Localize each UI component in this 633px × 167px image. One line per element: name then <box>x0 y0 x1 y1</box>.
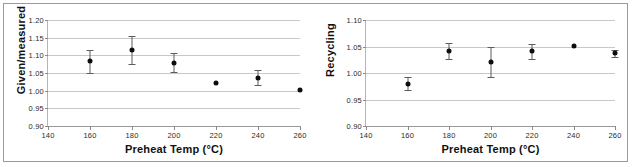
x-tick-mark <box>48 126 49 130</box>
error-bar-cap <box>529 44 536 45</box>
data-point <box>298 87 303 92</box>
y-tick-mark <box>45 55 48 56</box>
x-tick-mark <box>258 126 259 130</box>
x-tick-label: 160 <box>401 131 414 140</box>
y-tick-mark <box>363 47 366 48</box>
error-bar-cap <box>171 53 178 54</box>
x-tick-mark <box>366 126 367 130</box>
x-axis-label: Preheat Temp (°C) <box>48 143 300 155</box>
y-tick-mark <box>45 20 48 21</box>
y-tick-label: 1.00 <box>347 69 362 78</box>
y-tick-label: 0.90 <box>29 122 44 131</box>
y-tick-label: 1.10 <box>347 16 362 25</box>
x-tick-mark <box>491 126 492 130</box>
x-axis-label: Preheat Temp (°C) <box>366 143 615 155</box>
gridline-y <box>366 20 615 21</box>
y-tick-label: 0.95 <box>347 95 362 104</box>
x-tick-label: 200 <box>167 131 180 140</box>
x-tick-mark <box>300 126 301 130</box>
y-tick-mark <box>363 20 366 21</box>
data-point <box>447 49 452 54</box>
y-axis-label: Given/measured <box>15 0 27 103</box>
error-bar-cap <box>129 64 136 65</box>
data-point <box>613 51 618 56</box>
x-tick-label: 260 <box>608 131 621 140</box>
x-tick-label: 160 <box>83 131 96 140</box>
plot-area-given-measured: Preheat Temp (°C) 0.900.951.001.051.101.… <box>47 20 300 126</box>
y-tick-label: 1.00 <box>29 86 44 95</box>
error-bar-cap <box>446 43 453 44</box>
data-point <box>530 49 535 54</box>
x-tick-mark <box>615 126 616 130</box>
y-tick-mark <box>45 91 48 92</box>
x-axis-label-text: Preheat Temp (°C) <box>441 143 539 155</box>
x-tick-mark <box>574 126 575 130</box>
x-tick-label: 260 <box>293 131 306 140</box>
error-bar-cap <box>487 77 494 78</box>
x-tick-label: 180 <box>125 131 138 140</box>
data-point <box>405 81 410 86</box>
error-bar-cap <box>529 59 536 60</box>
y-tick-label: 0.90 <box>347 122 362 131</box>
x-axis-label-text: Preheat Temp (°C) <box>125 143 223 155</box>
x-tick-label: 200 <box>484 131 497 140</box>
error-bar-cap <box>446 59 453 60</box>
error-bar-cap <box>404 77 411 78</box>
data-point <box>172 60 177 65</box>
data-point <box>488 59 493 64</box>
data-point <box>130 47 135 52</box>
y-tick-label: 1.20 <box>29 16 44 25</box>
error-bar-cap <box>404 90 411 91</box>
error-bar-cap <box>255 85 262 86</box>
x-tick-label: 240 <box>567 131 580 140</box>
error-bar-cap <box>87 73 94 74</box>
y-tick-mark <box>45 108 48 109</box>
error-bar-cap <box>129 36 136 37</box>
x-tick-mark <box>532 126 533 130</box>
x-tick-mark <box>90 126 91 130</box>
error-bar-cap <box>87 50 94 51</box>
y-tick-mark <box>363 100 366 101</box>
x-tick-mark <box>408 126 409 130</box>
error-bar-cap <box>171 72 178 73</box>
error-bar-cap <box>255 70 262 71</box>
y-tick-label: 1.05 <box>29 69 44 78</box>
x-tick-mark <box>449 126 450 130</box>
x-tick-label: 220 <box>525 131 538 140</box>
y-tick-label: 1.05 <box>347 42 362 51</box>
gridline-y <box>366 100 615 101</box>
y-tick-mark <box>45 38 48 39</box>
gridline-y <box>48 20 300 21</box>
error-bar-cap <box>487 47 494 48</box>
error-bar-cap <box>612 57 619 58</box>
x-tick-label: 140 <box>41 131 54 140</box>
gridline-y <box>48 91 300 92</box>
y-tick-mark <box>363 73 366 74</box>
x-tick-label: 140 <box>359 131 372 140</box>
y-tick-label: 1.10 <box>29 51 44 60</box>
data-point <box>571 43 576 48</box>
y-tick-label: 0.95 <box>29 104 44 113</box>
gridline-y <box>48 108 300 109</box>
chart-panel-given-measured: Given/measured Preheat Temp (°C) 0.900.9… <box>4 4 317 163</box>
y-tick-mark <box>45 73 48 74</box>
x-tick-label: 240 <box>251 131 264 140</box>
x-tick-label: 180 <box>442 131 455 140</box>
data-point <box>88 59 93 64</box>
x-tick-mark <box>174 126 175 130</box>
x-tick-mark <box>132 126 133 130</box>
y-tick-label: 1.15 <box>29 33 44 42</box>
data-point <box>214 80 219 85</box>
y-axis-label: Recycling <box>324 0 336 103</box>
gridline-y <box>48 38 300 39</box>
x-tick-mark <box>216 126 217 130</box>
plot-area-recycling: Preheat Temp (°C) 0.900.951.001.051.1014… <box>365 20 615 126</box>
chart-panel-recycling: Recycling Preheat Temp (°C) 0.900.951.00… <box>317 4 627 163</box>
figure-frame: Given/measured Preheat Temp (°C) 0.900.9… <box>3 3 628 162</box>
x-tick-label: 220 <box>209 131 222 140</box>
data-point <box>256 75 261 80</box>
